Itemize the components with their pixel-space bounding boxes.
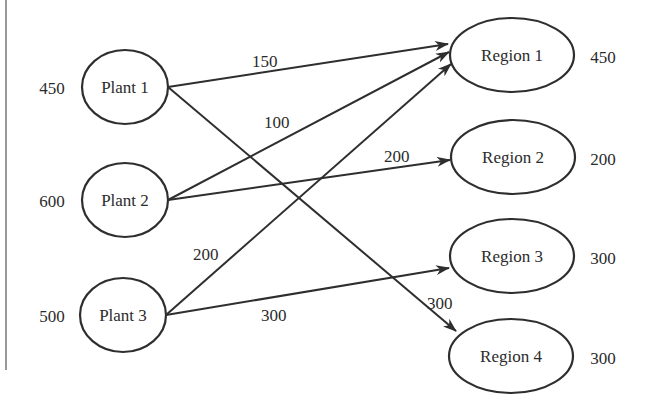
plant-label: Plant 3 (99, 306, 147, 325)
plant-node-3: Plant 3500 (39, 278, 166, 352)
region-node-4: Region 4300 (449, 319, 616, 393)
edge-plant2-region1: 100 (168, 52, 449, 200)
edge-arrow (166, 64, 451, 315)
region-node-2: Region 2200 (451, 120, 616, 194)
region-label: Region 3 (481, 247, 543, 266)
region-label: Region 4 (480, 347, 542, 366)
plant-label: Plant 1 (101, 78, 149, 97)
region-demand: 300 (590, 249, 616, 268)
edge-arrow (168, 160, 450, 200)
region-node-3: Region 3300 (450, 219, 616, 293)
edge-flow-label: 300 (427, 294, 453, 313)
plants: Plant 1450Plant 2600Plant 3500 (39, 50, 168, 352)
edge-flow-label: 100 (264, 113, 290, 132)
edge-flow-label: 150 (252, 52, 278, 71)
region-demand: 450 (590, 48, 616, 67)
plant-label: Plant 2 (101, 191, 149, 210)
edge-plant2-region2: 200 (168, 147, 450, 200)
edge-flow-label: 200 (384, 147, 410, 166)
region-label: Region 1 (481, 46, 543, 65)
plant-supply: 500 (39, 307, 65, 326)
edges: 150300100200200300 (166, 44, 456, 331)
edge-plant3-region1: 200 (166, 64, 451, 315)
edge-arrow (168, 44, 448, 87)
transportation-network-diagram: 150300100200200300 Plant 1450Plant 2600P… (0, 0, 650, 413)
edge-arrow (168, 52, 449, 200)
edge-arrow (166, 268, 449, 315)
regions: Region 1450Region 2200Region 3300Region … (449, 18, 616, 393)
plant-supply: 450 (39, 79, 65, 98)
region-demand: 300 (590, 349, 616, 368)
region-label: Region 2 (482, 148, 544, 167)
plant-node-2: Plant 2600 (39, 163, 168, 237)
edge-plant1-region1: 150 (168, 44, 448, 87)
region-node-1: Region 1450 (450, 18, 616, 92)
edge-flow-label: 200 (193, 245, 219, 264)
edge-flow-label: 300 (261, 306, 287, 325)
plant-node-1: Plant 1450 (39, 50, 168, 124)
region-demand: 200 (590, 150, 616, 169)
plant-supply: 600 (39, 192, 65, 211)
